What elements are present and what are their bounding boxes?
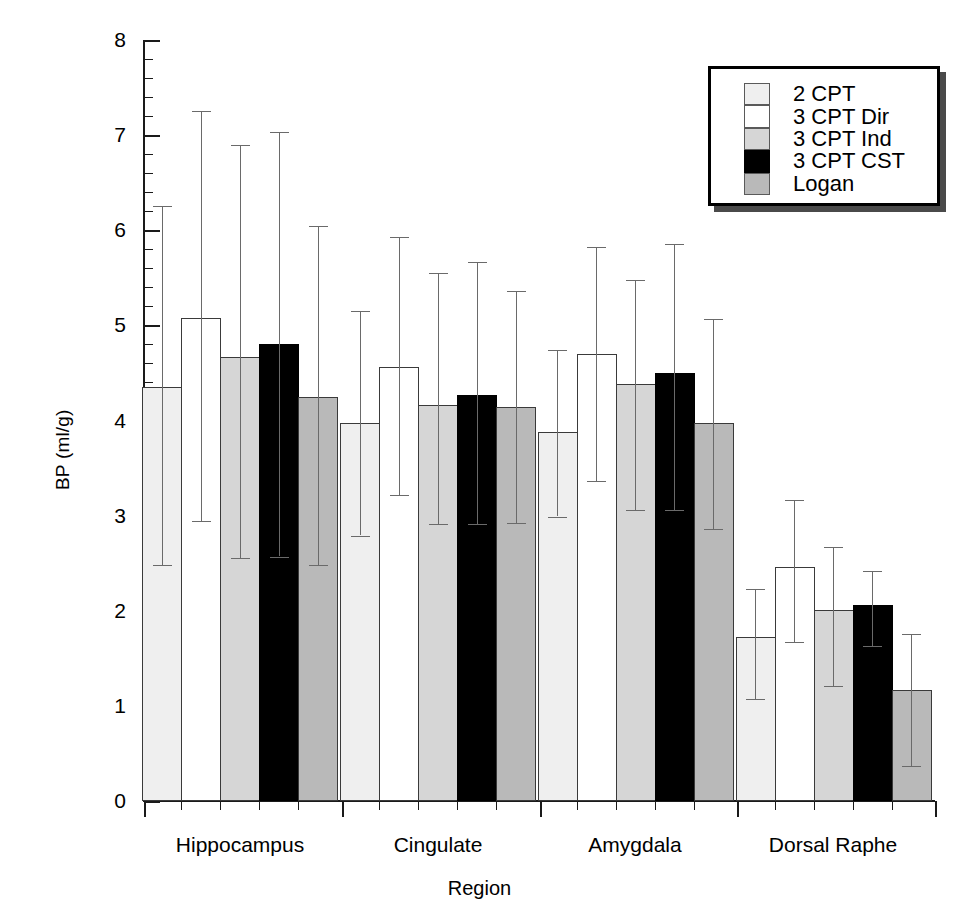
error-bar-cap-lower [192, 521, 211, 522]
x-tick-major [342, 801, 344, 817]
x-tick-label: Dorsal Raphe [723, 834, 943, 855]
error-bar-cap-upper [626, 280, 645, 281]
y-tick-minor [144, 344, 153, 345]
legend-swatch [744, 105, 770, 127]
error-bar-cap-lower [785, 642, 804, 643]
error-bar-stem [399, 237, 400, 495]
legend-swatch [744, 173, 770, 195]
x-tick-major [935, 801, 937, 817]
error-bar-cap-lower [270, 557, 289, 558]
bar [853, 605, 893, 801]
error-bar-cap-lower [309, 565, 328, 566]
error-bar-cap-upper [429, 273, 448, 274]
y-tick-major [144, 40, 160, 42]
error-bar-cap-lower [626, 510, 645, 511]
legend-label: 2 CPT [793, 83, 855, 105]
error-bar-stem [240, 145, 241, 559]
legend-label: Logan [793, 173, 854, 195]
x-tick-minor [655, 801, 656, 810]
y-tick-minor [144, 173, 153, 174]
error-bar-stem [755, 589, 756, 699]
bar [694, 423, 734, 801]
x-tick-minor [814, 801, 815, 810]
error-bar-cap-upper [192, 111, 211, 112]
y-tick-label: 2 [92, 600, 126, 621]
legend-label: 3 CPT Ind [793, 128, 892, 150]
y-tick-minor [144, 268, 153, 269]
x-tick-label: Amygdala [525, 834, 745, 855]
error-bar-cap-lower [548, 517, 567, 518]
error-bar-cap-upper [704, 319, 723, 320]
error-bar-stem [557, 350, 558, 516]
bar [892, 690, 932, 801]
bar [775, 567, 815, 801]
y-tick-major [144, 135, 160, 137]
bar [736, 637, 776, 801]
error-bar-stem [438, 273, 439, 524]
x-tick-minor [457, 801, 458, 810]
bar [577, 354, 617, 801]
error-bar-stem [516, 291, 517, 523]
x-tick-minor [853, 801, 854, 810]
error-bar-cap-upper [231, 145, 250, 146]
legend: 2 CPT3 CPT Dir3 CPT Ind3 CPT CSTLogan [708, 66, 940, 206]
error-bar-cap-lower [746, 699, 765, 700]
y-tick-minor [144, 306, 153, 307]
legend-label: 3 CPT CST [793, 150, 905, 172]
error-bar-stem [635, 280, 636, 510]
error-bar-stem [201, 111, 202, 521]
y-axis-title: BP (ml/g) [52, 409, 74, 490]
error-bar-cap-upper [587, 247, 606, 248]
y-tick-minor [144, 78, 153, 79]
error-bar-cap-upper [351, 311, 370, 312]
legend-swatch [744, 150, 770, 172]
x-tick-minor [694, 801, 695, 810]
error-bar-cap-upper [153, 206, 172, 207]
y-tick-minor [144, 382, 153, 383]
error-bar-cap-lower [351, 536, 370, 537]
error-bar-stem [279, 132, 280, 556]
error-bar-stem [833, 547, 834, 686]
x-tick-minor [892, 801, 893, 810]
error-bar-cap-lower [587, 481, 606, 482]
error-bar-cap-upper [468, 262, 487, 263]
error-bar-cap-lower [429, 524, 448, 525]
x-tick-minor [379, 801, 380, 810]
error-bar-cap-upper [270, 132, 289, 133]
y-tick-minor [144, 59, 153, 60]
error-bar-cap-upper [824, 547, 843, 548]
error-bar-cap-lower [153, 565, 172, 566]
x-tick-minor [220, 801, 221, 810]
error-bar-cap-upper [507, 291, 526, 292]
error-bar-stem [713, 319, 714, 529]
x-tick-major [144, 801, 146, 817]
error-bar-cap-lower [390, 495, 409, 496]
error-bar-cap-upper [902, 634, 921, 635]
x-tick-major [737, 801, 739, 817]
x-tick-minor [775, 801, 776, 810]
error-bar-cap-lower [507, 523, 526, 524]
bar [655, 373, 695, 801]
legend-swatch-column [744, 83, 770, 195]
error-bar-cap-upper [548, 350, 567, 351]
error-bar-cap-upper [746, 589, 765, 590]
y-tick-label: 6 [92, 219, 126, 240]
error-bar-cap-lower [231, 558, 250, 559]
error-bar-cap-upper [863, 571, 882, 572]
bar [616, 384, 656, 801]
y-tick-minor [144, 154, 153, 155]
x-tick-minor [616, 801, 617, 810]
error-bar-cap-lower [665, 510, 684, 511]
error-bar-stem [674, 244, 675, 510]
y-tick-major [144, 230, 160, 232]
y-tick-major [144, 801, 160, 803]
error-bar-cap-upper [309, 226, 328, 227]
legend-swatch [744, 83, 770, 105]
error-bar-cap-upper [785, 500, 804, 501]
error-bar-stem [318, 226, 319, 565]
y-tick-minor [144, 287, 153, 288]
error-bar-stem [477, 262, 478, 525]
y-tick-minor [144, 116, 153, 117]
error-bar-cap-lower [704, 529, 723, 530]
x-tick-major [540, 801, 542, 817]
